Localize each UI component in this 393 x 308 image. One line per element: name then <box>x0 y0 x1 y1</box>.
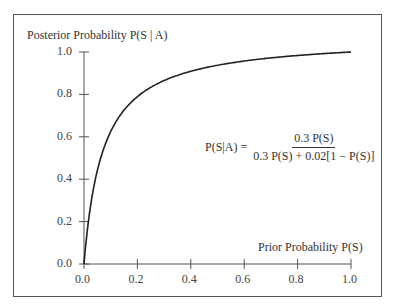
formula-annotation: P(S|A) = 0.3 P(S) 0.3 P(S) + 0.02[1 − P(… <box>205 131 374 164</box>
x-tick-label: 0.4 <box>182 272 197 287</box>
formula-lhs: P(S|A) = <box>205 140 247 155</box>
x-tick-label: 0.8 <box>289 272 304 287</box>
x-tick-label: 0.6 <box>235 272 250 287</box>
formula-denominator: 0.3 P(S) + 0.02[1 − P(S)] <box>253 148 374 164</box>
y-tick-label: 0.6 <box>57 129 72 144</box>
y-axis-label: Posterior Probability P(S | A) <box>27 28 167 43</box>
x-tick-label: 1.0 <box>342 272 357 287</box>
y-tick-label: 0.2 <box>57 214 72 229</box>
formula-numerator: 0.3 P(S) <box>292 131 335 148</box>
x-tick-label: 0.0 <box>75 272 90 287</box>
y-tick-label: 0.4 <box>57 171 72 186</box>
x-tick-label: 0.2 <box>128 272 143 287</box>
y-tick-label: 1.0 <box>57 44 72 59</box>
y-tick-label: 0.8 <box>57 86 72 101</box>
y-tick-label: 0.0 <box>57 256 72 271</box>
x-axis-label: Prior Probability P(S) <box>258 240 363 255</box>
